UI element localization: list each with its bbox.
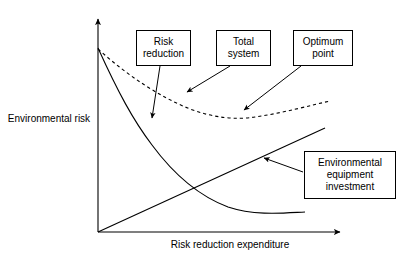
arrow-equipment-investment: [264, 158, 303, 172]
callout-optimum-point: Optimum point: [293, 30, 353, 66]
callout-total-system: Total system: [216, 30, 271, 66]
series-risk-reduction: [98, 48, 305, 213]
arrow-optimum-point: [244, 66, 301, 110]
x-axis-label: Risk reduction expenditure: [155, 239, 305, 251]
callout-optimum-point-line1: Optimum: [303, 36, 344, 48]
annotation-arrows: [152, 66, 303, 172]
chart-figure: Risk reduction Total system Optimum poin…: [0, 0, 397, 261]
arrow-total-system: [187, 66, 230, 92]
callout-risk-reduction-line2: reduction: [143, 48, 184, 60]
callout-optimum-point-line2: point: [312, 48, 334, 60]
series-equipment-investment: [98, 128, 325, 232]
y-axis-label-line2: risk: [75, 113, 91, 124]
callout-equipment-investment: Environmental equipment investment: [304, 151, 396, 199]
callout-total-system-line2: system: [228, 48, 260, 60]
callout-equipment-investment-line1: Environmental: [318, 157, 382, 169]
y-axis-label: Environmental risk: [6, 113, 92, 125]
callout-risk-reduction: Risk reduction: [136, 30, 191, 66]
callout-equipment-investment-line2: equipment: [327, 169, 374, 181]
callout-total-system-line1: Total: [233, 36, 254, 48]
arrow-risk-reduction: [152, 66, 160, 118]
callout-risk-reduction-line1: Risk: [154, 36, 173, 48]
y-axis-label-line1: Environmental: [8, 113, 72, 124]
callout-equipment-investment-line3: investment: [326, 181, 374, 193]
